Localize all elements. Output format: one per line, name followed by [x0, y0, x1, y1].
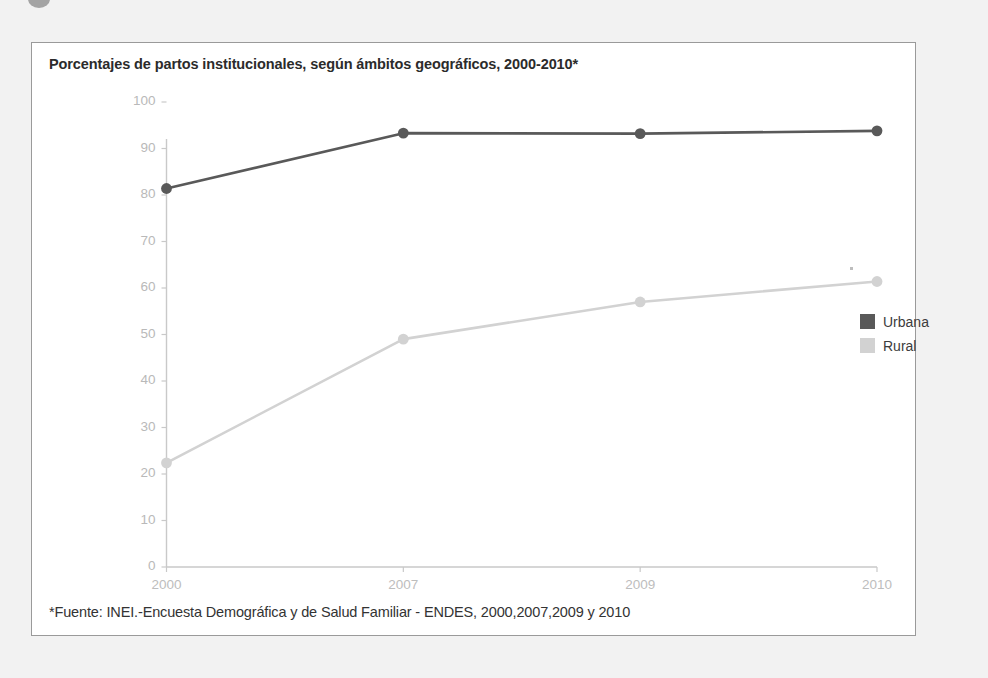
y-axis-tick-label: 70 — [122, 233, 156, 248]
legend-item-rural: Rural — [860, 335, 929, 356]
scan-speck-artifact — [850, 267, 853, 270]
legend-swatch-icon — [860, 314, 875, 329]
x-axis-tick-label: 2000 — [127, 577, 207, 592]
data-point-urbana-2010 — [872, 125, 883, 136]
x-axis-tick-label: 2009 — [600, 577, 680, 592]
y-axis-tick-label: 60 — [122, 279, 156, 294]
data-point-urbana-2009 — [635, 128, 646, 139]
y-axis-tick-label: 50 — [122, 326, 156, 341]
line-chart-svg — [32, 43, 917, 637]
data-point-rural-2007 — [398, 334, 409, 345]
page-scan-artifact — [28, 0, 50, 8]
plot-area: 0102030405060708090100 2000200720092010 … — [32, 43, 917, 637]
chart-legend: UrbanaRural — [860, 311, 929, 359]
figure-container: Porcentajes de partos institucionales, s… — [31, 42, 916, 636]
series-line-urbana — [167, 131, 878, 189]
y-axis-tick-label: 30 — [122, 419, 156, 434]
chart-axes — [162, 102, 878, 572]
y-axis-tick-label: 0 — [122, 558, 156, 573]
data-point-rural-2010 — [872, 276, 883, 287]
series-line-rural — [167, 281, 878, 462]
y-axis-tick-label: 100 — [122, 93, 156, 108]
x-axis-tick-label: 2007 — [363, 577, 443, 592]
chart-series-group — [161, 125, 882, 468]
data-point-urbana-2000 — [161, 183, 172, 194]
chart-source-footnote: *Fuente: INEI.-Encuesta Demográfica y de… — [49, 604, 630, 620]
legend-swatch-icon — [860, 338, 875, 353]
y-axis-tick-label: 80 — [122, 186, 156, 201]
data-point-rural-2009 — [635, 297, 646, 308]
legend-item-urbana: Urbana — [860, 311, 929, 332]
y-axis-tick-label: 20 — [122, 465, 156, 480]
data-point-rural-2000 — [161, 457, 172, 468]
y-axis-tick-marks — [162, 102, 167, 567]
y-axis-tick-label: 90 — [122, 140, 156, 155]
x-axis-tick-marks — [167, 567, 878, 572]
data-point-urbana-2007 — [398, 128, 409, 139]
y-axis-tick-label: 10 — [122, 512, 156, 527]
y-axis-tick-label: 40 — [122, 372, 156, 387]
legend-item-label: Urbana — [883, 314, 929, 330]
legend-item-label: Rural — [883, 338, 916, 354]
x-axis-tick-label: 2010 — [837, 577, 917, 592]
